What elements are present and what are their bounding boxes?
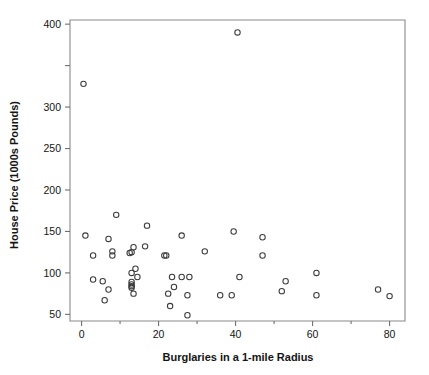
data-point xyxy=(314,293,319,298)
data-point xyxy=(185,293,190,298)
y-axis-title: House Price (1000s Pounds) xyxy=(8,101,20,249)
x-axis: 020406080 xyxy=(79,321,396,340)
data-point xyxy=(179,233,184,238)
y-tick-label: 250 xyxy=(43,142,61,154)
data-point xyxy=(237,274,242,279)
data-point xyxy=(142,244,147,249)
data-point xyxy=(185,313,190,318)
data-point xyxy=(135,274,140,279)
data-point xyxy=(283,279,288,284)
scatter-plot-figure: 50100150200250300400 020406080 Burglarie… xyxy=(0,0,429,375)
data-point xyxy=(202,249,207,254)
data-point xyxy=(260,253,265,258)
data-point xyxy=(81,81,86,86)
y-tick-label: 200 xyxy=(43,184,61,196)
y-tick-label: 100 xyxy=(43,267,61,279)
data-point xyxy=(133,266,138,271)
data-point xyxy=(217,293,222,298)
data-point xyxy=(90,253,95,258)
data-point xyxy=(314,270,319,275)
data-point xyxy=(106,236,111,241)
data-point xyxy=(131,245,136,250)
y-tick-label: 150 xyxy=(43,225,61,237)
y-tick-label: 400 xyxy=(43,18,61,30)
data-point xyxy=(179,274,184,279)
data-point xyxy=(260,235,265,240)
data-point xyxy=(169,274,174,279)
data-point xyxy=(235,30,240,35)
data-point xyxy=(171,284,176,289)
data-point xyxy=(83,233,88,238)
data-point xyxy=(229,293,234,298)
data-point xyxy=(387,293,392,298)
x-tick-label: 20 xyxy=(153,328,165,340)
data-point xyxy=(102,298,107,303)
x-axis-title: Burglaries in a 1-mile Radius xyxy=(163,351,314,363)
plot-canvas: 50100150200250300400 020406080 Burglarie… xyxy=(0,0,429,375)
x-tick-label: 80 xyxy=(384,328,396,340)
data-point xyxy=(279,288,284,293)
x-tick-label: 40 xyxy=(230,328,242,340)
data-point xyxy=(375,287,380,292)
data-point xyxy=(187,274,192,279)
y-tick-label: 300 xyxy=(43,101,61,113)
y-axis: 50100150200250300400 xyxy=(43,18,70,320)
data-point xyxy=(114,212,119,217)
data-point xyxy=(231,229,236,234)
data-point xyxy=(131,291,136,296)
data-point xyxy=(167,303,172,308)
data-point xyxy=(90,277,95,282)
data-points-layer xyxy=(81,30,393,318)
data-point xyxy=(165,291,170,296)
y-tick-label: 50 xyxy=(49,308,61,320)
data-point xyxy=(106,287,111,292)
data-point xyxy=(144,223,149,228)
data-point xyxy=(100,279,105,284)
x-tick-label: 60 xyxy=(307,328,319,340)
x-tick-label: 0 xyxy=(79,328,85,340)
